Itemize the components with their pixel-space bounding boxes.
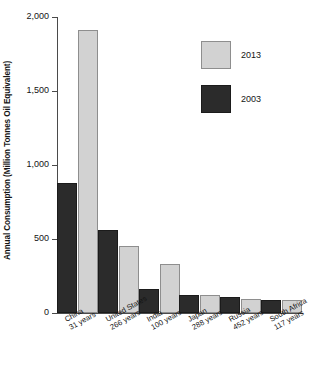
bar[interactable]	[78, 30, 98, 313]
y-axis-title: Annual Consumption (Million Tonnes Oil E…	[0, 0, 16, 320]
bar[interactable]	[57, 183, 77, 313]
legend-label-2003: 2003	[241, 94, 261, 104]
y-axis-tick-label: 1,000	[26, 159, 49, 169]
y-axis-tick-label: 500	[34, 233, 49, 243]
bar[interactable]	[98, 230, 118, 313]
y-axis-tick-label: 2,000	[26, 11, 49, 21]
y-axis-tick-label: 1,500	[26, 85, 49, 95]
bar-chart: Annual Consumption (Million Tonnes Oil E…	[0, 0, 309, 369]
y-axis-title-text: Annual Consumption (Million Tonnes Oil E…	[4, 60, 13, 259]
legend-swatch-2013	[201, 41, 231, 69]
plot-area	[57, 17, 302, 313]
y-axis-tick-label: 0	[44, 307, 49, 317]
legend-label-2013: 2013	[241, 50, 261, 60]
legend-swatch-2003	[201, 85, 231, 113]
tick-mark	[52, 313, 57, 314]
